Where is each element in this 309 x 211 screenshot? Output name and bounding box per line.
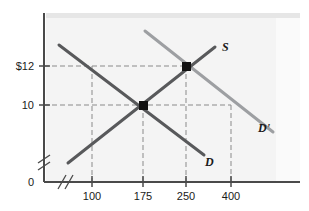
- x-axis-label-175: 175: [134, 190, 152, 202]
- demand-curve-label: D: [204, 155, 214, 169]
- x-axis-label-400: 400: [222, 190, 240, 202]
- supply-curve-label: S: [222, 40, 229, 54]
- x-axis-label-100: 100: [83, 190, 101, 202]
- plot-panel-background-fade: [276, 13, 300, 182]
- x-axis-label-250: 250: [177, 190, 195, 202]
- supply-demand-chart: $12 10 0 100 175 250 400 S D D': [0, 0, 309, 211]
- plot-panel-top-shade: [46, 13, 300, 18]
- origin-label: 0: [28, 176, 34, 188]
- demand-shifted-curve-label: D': [257, 121, 271, 135]
- new-equilibrium-marker: [182, 62, 191, 71]
- initial-equilibrium-marker: [139, 101, 148, 110]
- y-axis-label-12: $12: [16, 60, 34, 72]
- y-axis-label-10: 10: [22, 99, 34, 111]
- plot-panel-background: [46, 13, 300, 182]
